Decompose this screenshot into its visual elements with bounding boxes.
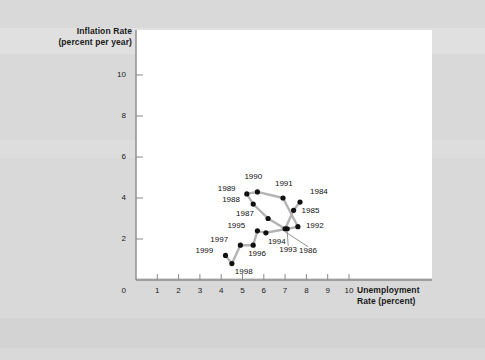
point-label-1994: 1994 [268, 237, 286, 246]
point-label-1986: 1986 [299, 246, 317, 255]
data-point-1987 [266, 216, 271, 221]
data-point-1988 [251, 202, 256, 207]
data-point-1992 [295, 224, 300, 229]
x-tick-label: 7 [275, 286, 295, 295]
x-tick-label: 2 [169, 286, 189, 295]
x-tick-label: 6 [254, 286, 274, 295]
point-label-1996: 1996 [248, 249, 266, 258]
y-tick-label: 8 [104, 111, 126, 120]
x-axis-title-line2: Rate (percent) [357, 296, 467, 307]
data-point-1995 [255, 228, 260, 233]
data-point-1997 [238, 243, 243, 248]
point-label-1995: 1995 [227, 221, 245, 230]
tick-marks [136, 75, 349, 280]
point-label-1992: 1992 [306, 221, 324, 230]
y-tick-label: 10 [104, 70, 126, 79]
x-tick-label: 4 [211, 286, 231, 295]
data-point-1989 [244, 191, 249, 196]
x-tick-label: 8 [296, 286, 316, 295]
data-point-1990 [255, 189, 260, 194]
point-label-1993: 1993 [279, 245, 297, 254]
data-point-1996 [251, 243, 256, 248]
data-point-1998 [229, 261, 234, 266]
point-label-1990: 1990 [244, 172, 262, 181]
x-axis-title-line1: Unemployment [357, 285, 467, 296]
point-label-1999: 1999 [195, 246, 213, 255]
point-label-1998: 1998 [235, 267, 253, 276]
y-tick-label: 6 [104, 152, 126, 161]
point-label-1991: 1991 [275, 179, 293, 188]
y-axis-title-line1: Inflation Rate [54, 26, 132, 37]
point-label-1989: 1989 [218, 184, 236, 193]
x-tick-label: 5 [233, 286, 253, 295]
point-label-1987: 1987 [236, 209, 254, 218]
x-tick-label: 3 [190, 286, 210, 295]
x-tick-label: 10 [339, 286, 359, 295]
y-axis-title: Inflation Rate (percent per year) [54, 26, 132, 48]
y-tick-label: 2 [104, 234, 126, 243]
data-point-1985 [291, 208, 296, 213]
x-axis-title: Unemployment Rate (percent) [357, 285, 467, 307]
point-label-1985: 1985 [302, 206, 320, 215]
point-label-1984: 1984 [310, 187, 328, 196]
y-tick-label: 4 [104, 193, 126, 202]
y-axis-title-line2: (percent per year) [54, 37, 132, 48]
x-tick-label: 9 [318, 286, 338, 295]
data-point-1984 [297, 200, 302, 205]
point-label-1997: 1997 [210, 235, 228, 244]
data-point-1994 [263, 230, 268, 235]
data-point-1991 [280, 195, 285, 200]
origin-tick-label: 0 [104, 286, 126, 295]
phillips-curve-figure: Inflation Rate (percent per year) Unempl… [0, 0, 485, 360]
point-label-1988: 1988 [222, 195, 240, 204]
data-point-1993 [285, 226, 290, 231]
data-point-1999 [223, 253, 228, 258]
x-tick-label: 1 [147, 286, 167, 295]
